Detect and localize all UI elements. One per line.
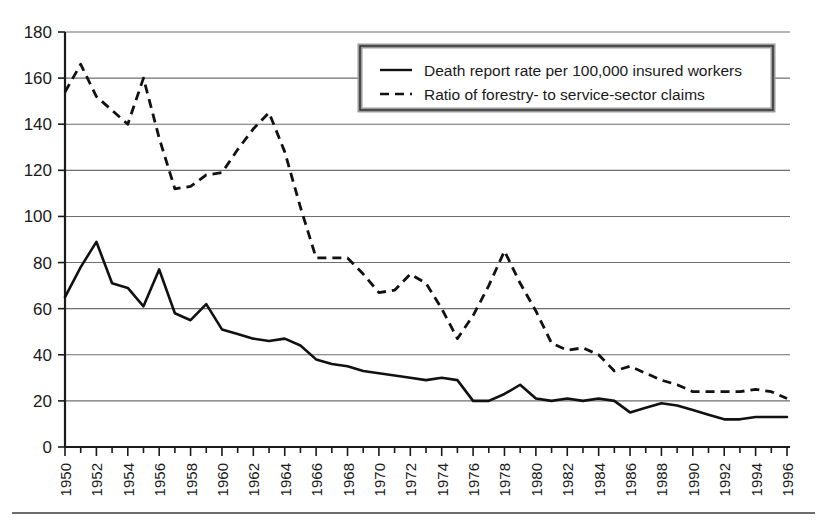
x-tick-label-1994: 1994: [748, 463, 765, 496]
x-tick-label-1950: 1950: [57, 463, 74, 496]
y-tick-labels: 020406080100120140160180: [24, 23, 52, 457]
y-tick-label-80: 80: [33, 254, 52, 273]
legend-label-death-report-rate: Death report rate per 100,000 insured wo…: [424, 62, 742, 79]
series-line-death-report-rate: [65, 242, 787, 420]
x-tick-label-1988: 1988: [653, 463, 670, 496]
y-tick-label-180: 180: [24, 23, 52, 42]
x-tick-label-1992: 1992: [716, 463, 733, 496]
x-tick-labels: 1950195219541956195819601962196419661968…: [57, 463, 796, 496]
x-tick-label-1996: 1996: [779, 463, 796, 496]
y-tick-label-20: 20: [33, 392, 52, 411]
x-tick-label-1958: 1958: [183, 463, 200, 496]
x-tick-label-1986: 1986: [622, 463, 639, 496]
chart-figure: 020406080100120140160180 195019521954195…: [0, 0, 827, 525]
y-tick-label-40: 40: [33, 346, 52, 365]
x-tick-label-1990: 1990: [685, 463, 702, 496]
series-line-ratio-forestry-to-service: [65, 64, 787, 398]
y-tick-label-100: 100: [24, 207, 52, 226]
y-tick-label-120: 120: [24, 161, 52, 180]
y-tick-label-160: 160: [24, 69, 52, 88]
y-tick-label-140: 140: [24, 115, 52, 134]
x-tick-label-1964: 1964: [277, 463, 294, 496]
x-tick-label-1974: 1974: [434, 463, 451, 496]
x-tick-label-1966: 1966: [308, 463, 325, 496]
x-tick-marks: [65, 447, 787, 456]
x-tick-label-1954: 1954: [120, 463, 137, 496]
y-tick-label-0: 0: [43, 438, 52, 457]
series-plot-area: [65, 64, 787, 419]
x-tick-label-1978: 1978: [496, 463, 513, 496]
x-tick-label-1952: 1952: [88, 463, 105, 496]
y-tick-label-60: 60: [33, 300, 52, 319]
x-tick-label-1968: 1968: [340, 463, 357, 496]
x-tick-label-1970: 1970: [371, 463, 388, 496]
x-tick-label-1960: 1960: [214, 463, 231, 496]
x-tick-label-1984: 1984: [591, 463, 608, 496]
x-tick-label-1956: 1956: [151, 463, 168, 496]
x-tick-label-1982: 1982: [559, 463, 576, 496]
x-tick-label-1980: 1980: [528, 463, 545, 496]
x-tick-label-1962: 1962: [245, 463, 262, 496]
x-tick-label-1976: 1976: [465, 463, 482, 496]
legend: Death report rate per 100,000 insured wo…: [360, 46, 773, 110]
legend-label-ratio-forestry-service: Ratio of forestry- to service-sector cla…: [424, 86, 705, 103]
line-chart: 020406080100120140160180 195019521954195…: [0, 0, 827, 525]
x-tick-label-1972: 1972: [402, 463, 419, 496]
